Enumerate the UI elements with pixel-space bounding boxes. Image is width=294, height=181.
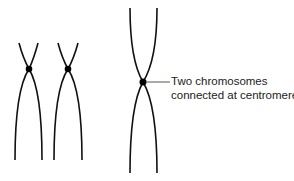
annotation-line-1: Two chromosomes [171,74,294,88]
large-chromosome-pair [130,8,157,173]
annotation-line-2: connected at centromere [171,88,294,102]
small-chromosome-2 [54,43,82,160]
small-chromosome-1 [15,43,42,160]
centromere-dot-2 [65,66,72,73]
centromere-dot-large [140,79,147,86]
centromere-dot-1 [26,66,33,73]
centromere-annotation: Two chromosomes connected at centromere [171,74,294,102]
